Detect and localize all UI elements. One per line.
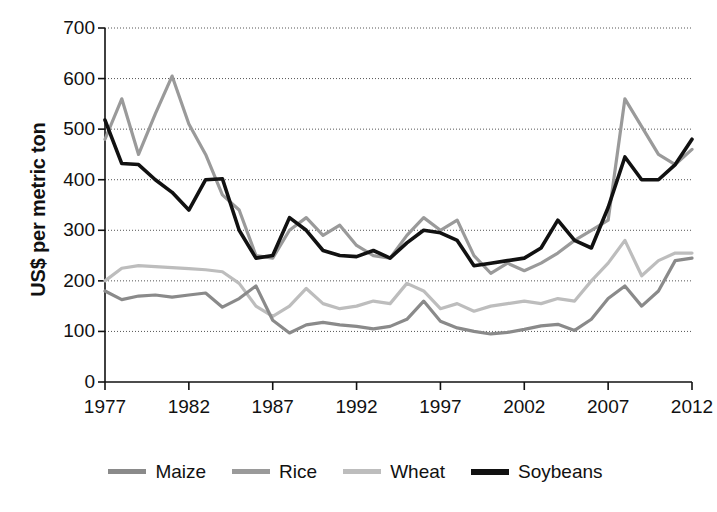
y-tick-label: 600 bbox=[39, 68, 95, 90]
x-tick-label: 1977 bbox=[70, 396, 140, 418]
legend-label: Soybeans bbox=[518, 462, 603, 481]
y-tick-label: 0 bbox=[39, 371, 95, 393]
legend-swatch-maize-icon bbox=[108, 469, 146, 474]
chart-legend: MaizeRiceWheatSoybeans bbox=[0, 462, 711, 481]
x-tick-label: 2002 bbox=[489, 396, 559, 418]
x-tick-label: 1987 bbox=[238, 396, 308, 418]
x-tick-label: 1982 bbox=[154, 396, 224, 418]
y-tick-label: 100 bbox=[39, 320, 95, 342]
legend-swatch-soybeans-icon bbox=[471, 469, 509, 475]
series-line-rice bbox=[105, 76, 692, 273]
legend-item-wheat[interactable]: Wheat bbox=[343, 462, 445, 481]
legend-item-rice[interactable]: Rice bbox=[232, 462, 317, 481]
legend-item-soybeans[interactable]: Soybeans bbox=[471, 462, 603, 481]
legend-swatch-rice-icon bbox=[232, 469, 270, 474]
y-tick-label: 200 bbox=[39, 270, 95, 292]
y-tick-label: 700 bbox=[39, 17, 95, 39]
y-axis-title: US$ per metric ton bbox=[27, 60, 50, 360]
legend-label: Wheat bbox=[390, 462, 445, 481]
legend-label: Rice bbox=[279, 462, 317, 481]
legend-label: Maize bbox=[155, 462, 206, 481]
legend-item-maize[interactable]: Maize bbox=[108, 462, 206, 481]
y-tick-label: 500 bbox=[39, 118, 95, 140]
series-line-soybeans bbox=[105, 120, 692, 266]
y-tick-label: 400 bbox=[39, 169, 95, 191]
x-tick-label: 2007 bbox=[573, 396, 643, 418]
x-tick-label: 2012 bbox=[657, 396, 717, 418]
y-tick-label: 300 bbox=[39, 219, 95, 241]
x-tick-label: 1997 bbox=[405, 396, 475, 418]
x-tick-label: 1992 bbox=[322, 396, 392, 418]
legend-swatch-wheat-icon bbox=[343, 469, 381, 474]
